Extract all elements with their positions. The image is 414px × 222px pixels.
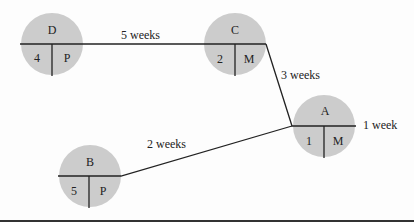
node-c-duration: 2 <box>217 52 223 67</box>
node-b-name: B <box>86 155 94 170</box>
bottom-divider <box>0 220 414 222</box>
node-a-duration: 1 <box>306 134 312 149</box>
edge-d-c-label: 5 weeks <box>121 28 160 43</box>
node-d-duration: 4 <box>34 51 40 66</box>
network-diagram: D 4 P C 2 M A 1 M B 5 P 5 weeks 3 weeks … <box>0 0 414 222</box>
diagram-canvas <box>0 0 414 222</box>
edge-c-a-label: 3 weeks <box>281 68 320 83</box>
node-d-name: D <box>48 23 57 38</box>
node-b-duration: 5 <box>71 184 77 199</box>
node-b-owner: P <box>100 184 107 199</box>
node-c-owner: M <box>244 52 255 67</box>
edge-a-end-label: 1 week <box>363 118 397 133</box>
node-a-owner: M <box>333 134 344 149</box>
node-c-name: C <box>231 23 239 38</box>
edge-b-a-label: 2 weeks <box>147 137 186 152</box>
node-a-name: A <box>321 104 330 119</box>
node-d-owner: P <box>64 51 71 66</box>
